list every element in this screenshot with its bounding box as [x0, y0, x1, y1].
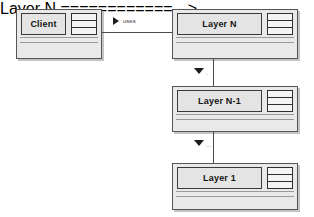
compartment-divider: [176, 37, 294, 38]
layer-n-label: Layer N: [202, 20, 236, 29]
table-row: [268, 21, 292, 28]
diagram-canvas: Client Layer N ============ --> uses Lay…: [0, 0, 314, 217]
layer-1-name-compartment: Layer 1: [177, 167, 262, 189]
three-row-table-icon: [267, 13, 293, 35]
compartment-divider: [20, 37, 98, 38]
client-name-compartment: Client: [21, 13, 66, 35]
client-header: Client: [17, 10, 101, 37]
node-layer-n[interactable]: Layer N: [172, 9, 298, 59]
three-row-table-icon: [71, 13, 97, 35]
layer-1-header: Layer 1: [173, 164, 297, 191]
client-label: Client: [30, 20, 56, 29]
node-layer-1[interactable]: Layer 1: [172, 163, 298, 210]
table-row: [268, 105, 292, 111]
edge-client-uses-layer-n: [102, 32, 173, 33]
edge-label-layer-gap: ...: [206, 142, 213, 148]
edge-layer-n-minus-1-to-layer-1: [213, 132, 214, 163]
node-client[interactable]: Client: [16, 9, 102, 59]
table-row: [268, 175, 292, 182]
compartment-divider: [176, 191, 294, 192]
edge-label-uses: uses: [123, 18, 136, 24]
layer-n-minus-1-name-compartment: Layer N-1: [177, 90, 262, 112]
layer-n-minus-1-label: Layer N-1: [198, 97, 241, 106]
solid-down-triangle-icon: [194, 68, 204, 74]
table-row: [268, 168, 292, 175]
table-row: [268, 182, 292, 188]
compartment-divider: [176, 119, 294, 120]
layer-n-minus-1-compartments: [173, 114, 297, 120]
solid-down-triangle-icon: [194, 140, 204, 146]
table-row: [72, 14, 96, 21]
layer-n-header: Layer N: [173, 10, 297, 37]
layer-1-label: Layer 1: [203, 174, 236, 183]
layer-n-name-compartment: Layer N: [177, 13, 262, 35]
client-compartments: [17, 37, 101, 43]
three-row-table-icon: [267, 90, 293, 112]
table-row: [72, 21, 96, 28]
table-row: [72, 28, 96, 34]
table-row: [268, 91, 292, 98]
layer-1-compartments: [173, 191, 297, 197]
compartment-divider: [176, 42, 294, 43]
table-row: [268, 98, 292, 105]
table-row: [268, 28, 292, 34]
layer-n-compartments: [173, 37, 297, 43]
edge-layer-n-to-layer-n-minus-1: [213, 59, 214, 86]
layer-n-minus-1-header: Layer N-1: [173, 87, 297, 114]
edge-label-layer-n-gap: .: [206, 70, 208, 76]
three-row-table-icon: [267, 167, 293, 189]
solid-right-triangle-icon: [113, 17, 119, 25]
table-row: [268, 14, 292, 21]
compartment-divider: [176, 114, 294, 115]
node-layer-n-minus-1[interactable]: Layer N-1: [172, 86, 298, 132]
compartment-divider: [20, 42, 98, 43]
compartment-divider: [176, 196, 294, 197]
